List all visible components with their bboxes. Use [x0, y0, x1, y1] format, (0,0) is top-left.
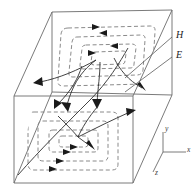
x-axis-label: x: [186, 145, 191, 154]
h-field-loops-bottom-face: [28, 112, 118, 170]
electromagnetic-cavity-diagram: H E y x z: [0, 0, 196, 192]
arrow-head-icon: [92, 24, 100, 30]
arrow-head-icon: [70, 144, 78, 150]
e-curve-left-out: [40, 60, 96, 82]
arrow-head-icon: [63, 149, 71, 155]
axis-triad-icon: y x z: [153, 124, 191, 177]
box-edge-top-back: [52, 10, 172, 12]
arrow-head-icon: [56, 158, 64, 164]
arrow-head-icon: [126, 108, 136, 116]
e-field-label: E: [175, 49, 182, 60]
h-loop-inner-top: [91, 51, 126, 65]
box-edge-diagonal-lower-right: [133, 95, 172, 183]
h-field-arrowheads-bottom: [49, 144, 78, 172]
z-axis-label: z: [154, 168, 158, 177]
arrow-head-icon: [33, 77, 43, 86]
box-edge-diagonal-lower-left: [14, 92, 52, 183]
box-edge-diagonal-upper-left: [14, 12, 52, 96]
h-loop-third-top: [80, 44, 136, 69]
arrow-head-icon: [49, 166, 57, 172]
e-curve-lower-right-out: [78, 112, 130, 137]
figure-container: H E y x z: [0, 0, 196, 192]
arrow-head-icon: [86, 140, 95, 150]
h-field-arrowheads-top: [88, 24, 118, 56]
e-curve-upper-to-lower-diagonal: [58, 66, 82, 104]
y-axis-label: y: [164, 124, 169, 133]
e-curve-lower-center-fan-b: [58, 116, 78, 137]
e-curve-left-loop-down: [66, 60, 96, 108]
arrow-head-icon: [88, 50, 96, 56]
arrow-head-icon: [61, 102, 71, 112]
arrow-head-icon: [99, 30, 107, 36]
h-label-leader-line: [125, 37, 172, 78]
arrow-head-icon: [137, 82, 146, 91]
h-field-label: H: [175, 29, 184, 40]
h-loop-third-bottom: [49, 130, 98, 152]
